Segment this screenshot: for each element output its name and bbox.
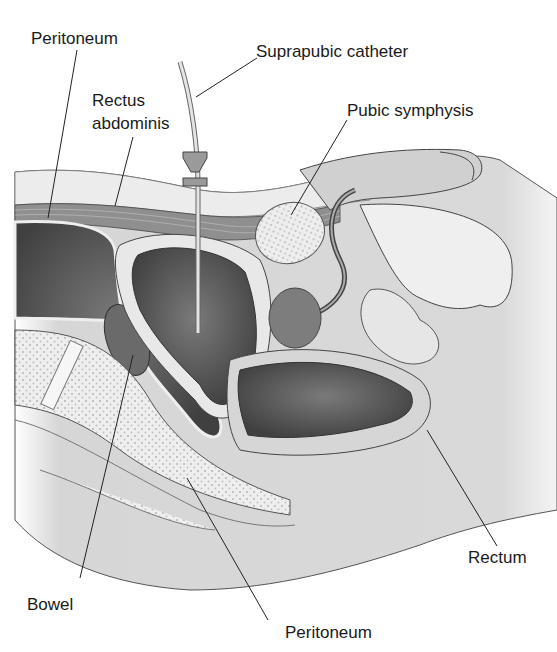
label-bowel: Bowel [27, 595, 73, 614]
anatomy-diagram: Peritoneum Suprapubic catheter Rectus ab… [0, 0, 557, 652]
label-rectus-line1: Rectus [92, 91, 145, 110]
label-peritoneum-top: Peritoneum [31, 29, 118, 48]
label-peritoneum-bottom: Peritoneum [285, 623, 372, 642]
prostate [269, 288, 321, 348]
label-rectus-line2: abdominis [92, 114, 170, 133]
label-rectum: Rectum [468, 548, 527, 567]
label-pubic-symphysis: Pubic symphysis [347, 101, 474, 120]
label-suprapubic-catheter: Suprapubic catheter [256, 42, 408, 61]
